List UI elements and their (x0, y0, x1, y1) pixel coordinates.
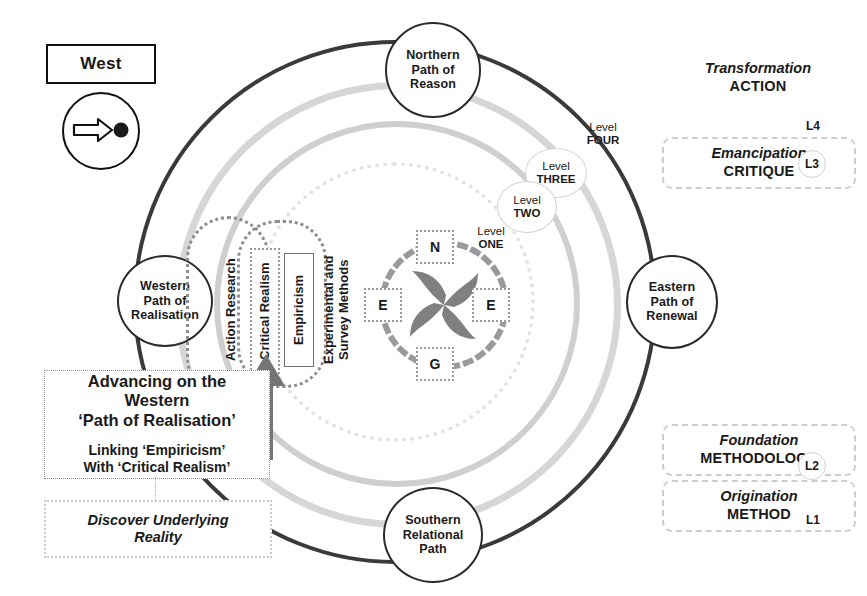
south-line-2: Relational (403, 528, 464, 542)
method-label-empiricism: Empiricism (284, 253, 314, 367)
l4-italic: Transformation (705, 60, 811, 78)
l1-tag: L1 (806, 513, 820, 527)
south-line-1: Southern (405, 513, 461, 527)
callout-line-2: Western (125, 391, 190, 409)
level-four-num: FOUR (587, 134, 620, 146)
l2-italic: Foundation (720, 432, 799, 450)
node-northern-path[interactable]: Northern Path of Reason (385, 22, 481, 118)
l4-tag: L4 (806, 119, 820, 133)
center-key-south: G (416, 347, 454, 381)
level-marker-four: Level FOUR (570, 115, 636, 153)
right-level-four: Transformation ACTION (664, 56, 852, 100)
west-label: West (80, 54, 122, 74)
east-line-1: Eastern (649, 280, 696, 294)
center-key-west: E (364, 288, 402, 322)
arrow-right-dot-icon (64, 94, 138, 168)
west-line-2: Path of (143, 294, 186, 308)
level-three-word: Level (542, 160, 570, 172)
l1-italic: Origination (720, 488, 797, 506)
compass-circle (62, 92, 140, 170)
l1-caps: METHOD (727, 506, 791, 524)
discover-line-2: Reality (134, 529, 182, 545)
west-line-1: Western (140, 279, 190, 293)
level-two-word: Level (513, 194, 541, 206)
right-level-one: Origination METHOD (662, 480, 856, 532)
l3-italic: Emancipation (711, 145, 806, 163)
right-level-two: Foundation METHODOLOGY (662, 424, 856, 476)
callout-line-3: ‘Path of Realisation’ (78, 411, 236, 429)
discover-callout: Discover Underlying Reality (44, 500, 272, 558)
node-southern-path[interactable]: Southern Relational Path (383, 487, 483, 583)
l3-tag: L3 (798, 150, 826, 178)
west-legend-box: West (46, 44, 156, 84)
north-line-3: Reason (410, 77, 456, 91)
east-line-2: Path of (650, 295, 693, 309)
node-eastern-path[interactable]: Eastern Path of Renewal (626, 255, 718, 349)
diagram-canvas: West Northern Path of Reason Southern Re… (0, 0, 867, 596)
l4-caps: ACTION (730, 78, 787, 96)
level-three-num: THREE (537, 173, 576, 185)
callout-line-4: Linking ‘Empiricism’ (89, 442, 226, 458)
callout-line-1: Advancing on the (88, 372, 226, 390)
center-key-east: E (472, 288, 510, 322)
callout-connector (155, 477, 156, 500)
east-line-3: Renewal (646, 309, 697, 323)
l2-tag: L2 (798, 452, 826, 480)
level-four-word: Level (589, 121, 617, 133)
north-line-2: Path of (411, 63, 454, 77)
advancing-callout: Advancing on the Western ‘Path of Realis… (44, 370, 270, 479)
method-label-action-research: Action Research (214, 255, 248, 365)
callout-line-5: With ‘Critical Realism’ (84, 459, 231, 475)
north-line-1: Northern (406, 48, 460, 62)
discover-line-1: Discover Underlying (87, 512, 228, 528)
south-line-3: Path (419, 542, 447, 556)
l3-caps: CRITIQUE (724, 163, 795, 181)
method-label-experimental-survey: Experimental and Survey Methods (318, 247, 356, 373)
center-key-north: N (416, 230, 454, 264)
right-level-three: Emancipation CRITIQUE (662, 137, 856, 189)
